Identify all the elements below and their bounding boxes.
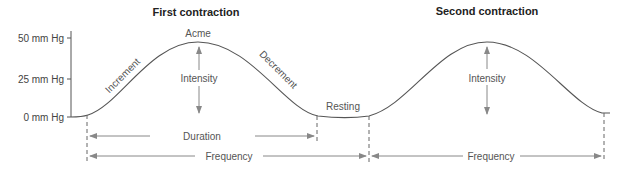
duration-arrow: Duration xyxy=(90,131,314,142)
intensity-arrow-2: Intensity xyxy=(468,47,505,114)
intensity-label-1: Intensity xyxy=(180,73,217,84)
frequency-arrow-2: Frequency xyxy=(372,151,601,162)
y-tick-0: 0 mm Hg xyxy=(23,112,64,123)
dashed-markers xyxy=(87,113,604,162)
frequency-label-2: Frequency xyxy=(467,151,514,162)
intensity-arrow-1: Intensity xyxy=(180,47,217,113)
intensity-label-2: Intensity xyxy=(468,73,505,84)
resting-label: Resting xyxy=(326,101,360,112)
second-contraction-title: Second contraction xyxy=(436,5,539,17)
first-contraction-title: First contraction xyxy=(153,6,240,18)
frequency-label-1: Frequency xyxy=(205,151,252,162)
y-axis: 50 mm Hg 25 mm Hg 0 mm Hg xyxy=(18,31,71,123)
duration-label: Duration xyxy=(183,131,221,142)
uterine-contraction-diagram: First contraction Second contraction 50 … xyxy=(0,0,624,170)
acme-label: Acme xyxy=(185,28,211,39)
frequency-arrow-1: Frequency xyxy=(90,151,366,162)
decrement-label: Decrement xyxy=(257,48,300,91)
y-tick-50: 50 mm Hg xyxy=(18,33,64,44)
y-tick-25: 25 mm Hg xyxy=(18,74,64,85)
